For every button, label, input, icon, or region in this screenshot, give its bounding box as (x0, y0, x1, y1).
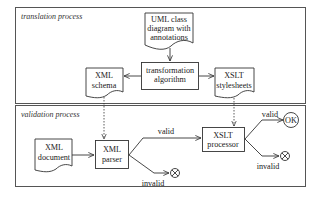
svg-text:stylesheets: stylesheets (216, 81, 251, 90)
ok-terminal: OK (284, 113, 299, 128)
svg-text:invalid: invalid (257, 162, 280, 171)
svg-text:diagram with: diagram with (147, 24, 190, 33)
svg-text:processor: processor (207, 140, 239, 149)
svg-text:valid: valid (262, 110, 278, 119)
uml-class-diagram-node: UML class diagram with annotations (145, 13, 193, 49)
svg-text:document: document (38, 153, 71, 162)
svg-text:parser: parser (102, 155, 122, 164)
xml-schema-node: XML schema (86, 68, 123, 98)
svg-text:algorithm: algorithm (154, 75, 186, 84)
parser-valid-edge (129, 138, 201, 155)
svg-text:invalid: invalid (142, 179, 165, 188)
svg-text:XSLT: XSLT (213, 131, 233, 140)
xslt-stylesheets-node: XSLT stylesheets (215, 68, 254, 98)
svg-text:XML: XML (103, 145, 121, 154)
processor-valid-edge (245, 120, 283, 139)
xml-parser-node: XML parser (96, 141, 129, 169)
xslt-processor-node: XSLT processor (203, 128, 245, 152)
svg-text:XML: XML (45, 143, 63, 152)
svg-text:schema: schema (92, 81, 117, 90)
parser-invalid-edge (129, 155, 169, 173)
svg-text:valid: valid (158, 127, 174, 136)
svg-text:OK: OK (285, 116, 297, 125)
process-diagram: translation process validation process U… (0, 0, 319, 202)
svg-text:XML: XML (95, 71, 113, 80)
parser-reject-terminal-icon (171, 169, 180, 178)
svg-text:XSLT: XSLT (224, 71, 244, 80)
xml-document-node: XML document (35, 139, 72, 172)
validation-process-label: validation process (21, 110, 80, 119)
svg-text:annotations: annotations (150, 33, 188, 42)
svg-text:transformation: transformation (146, 66, 194, 75)
translation-process-label: translation process (21, 12, 82, 21)
transformation-algorithm-node: transformation algorithm (142, 63, 199, 90)
svg-text:UML class: UML class (151, 15, 187, 24)
processor-reject-terminal-icon (281, 152, 290, 161)
processor-invalid-edge (245, 139, 279, 156)
